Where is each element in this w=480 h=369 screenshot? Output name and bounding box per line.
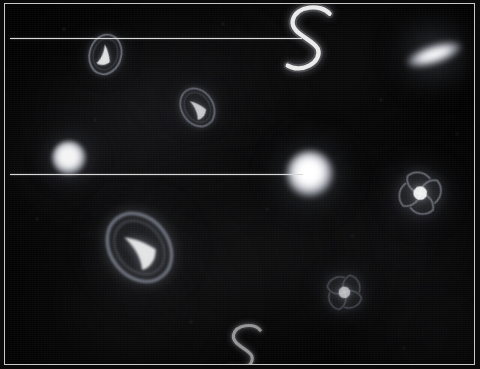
- faint-star: [36, 218, 38, 220]
- faint-star: [380, 99, 382, 101]
- galaxy-core-bar: [187, 96, 209, 120]
- galaxy-field-viewport: [0, 0, 480, 369]
- galaxy-ring-upper-middle: [161, 71, 234, 144]
- faint-star: [403, 347, 405, 349]
- galaxy-core-bar: [119, 226, 161, 270]
- galaxy-s-shape-upper-right: [266, 4, 350, 81]
- faint-star: [63, 28, 65, 30]
- galaxy-spiral-right: [379, 152, 462, 235]
- sky-canvas: [5, 4, 474, 364]
- nebula-cloud: [370, 279, 474, 364]
- galaxy-core: [411, 184, 429, 202]
- faint-star: [351, 235, 353, 237]
- galaxy-spiral-upper-left: [73, 22, 138, 87]
- faint-star: [190, 321, 192, 323]
- galaxy-core: [337, 285, 350, 298]
- faint-star: [266, 208, 268, 210]
- image-frame-border: [4, 3, 475, 365]
- upper-measure-line[interactable]: [10, 38, 302, 39]
- galaxy-core-bar: [96, 43, 114, 66]
- galaxy-s-shape-bottom: [214, 318, 275, 364]
- lower-measure-line[interactable]: [10, 174, 303, 175]
- faint-star: [456, 133, 458, 135]
- faint-star: [94, 119, 96, 121]
- galaxy-ring-lower-left: [71, 179, 207, 315]
- galaxy-spiral-lower-middle: [313, 261, 374, 322]
- faint-star: [222, 23, 224, 25]
- star-blob-left: [52, 141, 86, 175]
